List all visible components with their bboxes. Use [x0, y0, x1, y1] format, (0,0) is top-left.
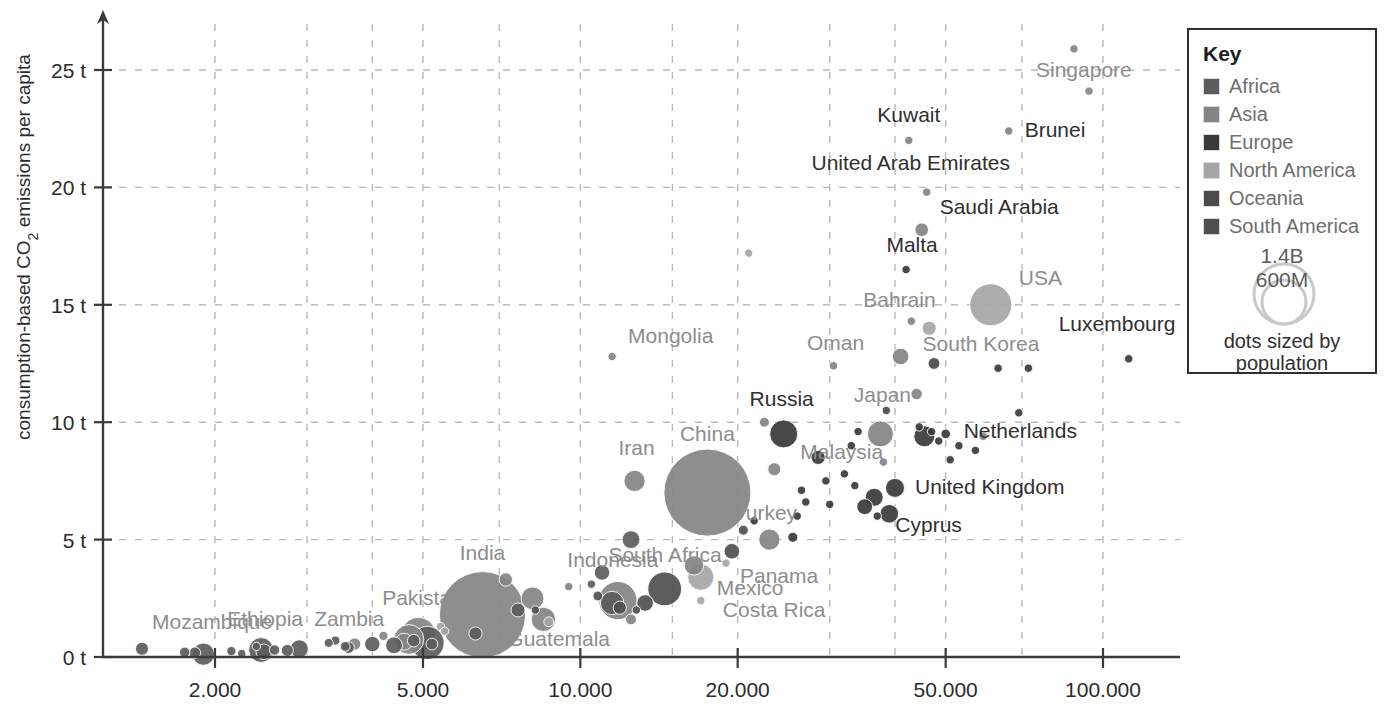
data-point[interactable]: [521, 587, 544, 610]
data-point[interactable]: [587, 580, 595, 588]
data-point[interactable]: [1070, 45, 1078, 53]
point-labels: MozambiqueEthiopiaZambiaPakistanIndiaGua…: [152, 58, 1175, 650]
data-point[interactable]: [281, 644, 293, 656]
data-point[interactable]: [379, 631, 388, 640]
size-label-large: 1.4B: [1189, 244, 1375, 268]
data-point[interactable]: [499, 573, 512, 586]
data-point[interactable]: [935, 437, 943, 445]
data-point[interactable]: [697, 596, 705, 604]
data-point[interactable]: [955, 442, 963, 450]
data-point[interactable]: [971, 446, 979, 454]
data-point[interactable]: [365, 636, 380, 651]
point-label-usa: USA: [1019, 266, 1062, 289]
data-point[interactable]: [826, 500, 834, 508]
point-label-cyprus: Cyprus: [895, 513, 962, 536]
data-point[interactable]: [788, 532, 798, 542]
data-point[interactable]: [340, 642, 350, 652]
data-point[interactable]: [252, 642, 260, 650]
point-label-japan: Japan: [854, 383, 911, 406]
data-point[interactable]: [722, 559, 730, 567]
legend-item-asia[interactable]: Asia: [1203, 102, 1375, 127]
data-point[interactable]: [857, 499, 873, 515]
point-label-zambia: Zambia: [314, 607, 384, 630]
point-label-netherlands: Netherlands: [964, 419, 1077, 442]
data-point[interactable]: [923, 188, 931, 196]
data-point[interactable]: [227, 647, 236, 656]
data-point[interactable]: [994, 364, 1002, 372]
data-point[interactable]: [511, 603, 525, 617]
data-point[interactable]: [1005, 127, 1013, 135]
data-point[interactable]: [632, 606, 640, 614]
y-tick-label: 20 t: [51, 176, 86, 199]
data-point[interactable]: [531, 606, 539, 614]
data-point[interactable]: [905, 136, 913, 144]
data-point[interactable]: [927, 427, 935, 435]
data-point[interactable]: [407, 634, 420, 647]
x-tick-label: 50.000: [914, 678, 978, 701]
point-label-mongolia: Mongolia: [628, 324, 714, 347]
data-point[interactable]: [759, 529, 780, 550]
data-point[interactable]: [738, 525, 748, 535]
data-point[interactable]: [970, 284, 1012, 326]
data-point[interactable]: [624, 470, 645, 491]
legend-title: Key: [1203, 42, 1375, 66]
data-point[interactable]: [822, 477, 830, 485]
bubble-size-caption: dots sized by population: [1189, 330, 1375, 375]
data-point[interactable]: [941, 429, 951, 439]
data-point[interactable]: [892, 348, 909, 365]
y-axis-title: consumption-based CO2 emissions per capi…: [13, 54, 41, 440]
legend-item-africa[interactable]: Africa: [1203, 74, 1375, 99]
data-point[interactable]: [426, 638, 438, 650]
data-point[interactable]: [1125, 355, 1133, 363]
data-point[interactable]: [911, 388, 922, 399]
data-point[interactable]: [873, 512, 881, 520]
legend-item-south-america[interactable]: South America: [1203, 214, 1375, 239]
data-point[interactable]: [324, 638, 333, 647]
data-point[interactable]: [882, 406, 890, 414]
point-label-united-kingdom: United Kingdom: [915, 475, 1064, 498]
point-label-russia: Russia: [750, 387, 815, 410]
point-label-luxembourg: Luxembourg: [1059, 312, 1176, 335]
data-point[interactable]: [829, 362, 837, 370]
data-point[interactable]: [626, 614, 637, 625]
data-point[interactable]: [469, 627, 482, 640]
data-point[interactable]: [593, 591, 603, 601]
point-label-united-arab-emirates: United Arab Emirates: [811, 151, 1009, 174]
x-tick-label: 2.000: [189, 678, 242, 701]
data-point[interactable]: [745, 249, 753, 257]
x-tick-label: 5.000: [397, 678, 450, 701]
data-point[interactable]: [613, 601, 626, 614]
data-point[interactable]: [565, 582, 573, 590]
legend-items: AfricaAsiaEuropeNorth AmericaOceaniaSout…: [1189, 74, 1375, 239]
data-point[interactable]: [724, 544, 740, 560]
data-point[interactable]: [544, 617, 554, 627]
data-point[interactable]: [886, 478, 905, 497]
point-label-bahrain: Bahrain: [863, 288, 935, 311]
data-point[interactable]: [946, 456, 954, 464]
data-point[interactable]: [386, 637, 403, 654]
legend-item-north-america[interactable]: North America: [1203, 158, 1375, 183]
data-point[interactable]: [1085, 87, 1093, 95]
data-point[interactable]: [797, 486, 805, 494]
data-point[interactable]: [440, 627, 448, 635]
legend-item-oceania[interactable]: Oceania: [1203, 186, 1375, 211]
data-point[interactable]: [269, 645, 279, 655]
data-point[interactable]: [1015, 409, 1023, 417]
data-point[interactable]: [770, 420, 798, 448]
data-point[interactable]: [854, 427, 862, 435]
data-point[interactable]: [136, 642, 149, 655]
legend-swatch-icon: [1203, 190, 1220, 207]
data-point[interactable]: [902, 265, 910, 273]
data-point[interactable]: [907, 317, 915, 325]
data-point[interactable]: [759, 417, 769, 427]
data-point[interactable]: [608, 352, 616, 360]
y-tick-label: 0 t: [63, 646, 87, 669]
legend-item-europe[interactable]: Europe: [1203, 130, 1375, 155]
data-point[interactable]: [915, 423, 923, 431]
data-point[interactable]: [802, 498, 810, 506]
data-point[interactable]: [768, 463, 781, 476]
data-point[interactable]: [1024, 364, 1032, 372]
data-point[interactable]: [928, 358, 940, 370]
data-point[interactable]: [840, 470, 848, 478]
data-point[interactable]: [851, 481, 859, 489]
